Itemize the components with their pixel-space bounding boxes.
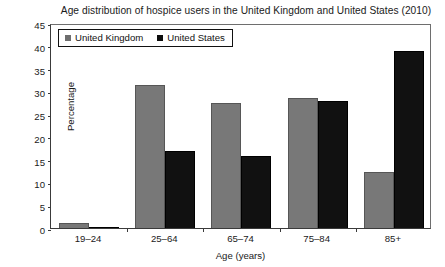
plot-inner [51,25,430,228]
x-axis-title: Age (years) [50,250,431,261]
bar-group [127,25,203,228]
y-tick-label: 35 [5,65,51,76]
bar-us [241,156,271,228]
bar-uk [211,103,241,228]
x-tick-mark [356,228,357,232]
bar-uk [135,85,165,229]
bar-group [280,25,356,228]
bar-us [318,101,348,228]
chart-title: Age distribution of hospice users in the… [56,5,436,16]
y-tick-label: 5 [5,202,51,213]
legend-label: United Kingdom [75,32,143,43]
x-tick-mark [127,228,128,232]
bar-us [394,51,424,228]
bar-us [89,227,119,229]
x-tick-mark [203,228,204,232]
legend-item-united-kingdom: United Kingdom [65,32,143,43]
y-tick-label: 15 [5,156,51,167]
bar-uk [59,223,89,228]
y-tick-label: 30 [5,88,51,99]
y-tick-label: 45 [5,20,51,31]
legend-swatch-icon [157,35,163,41]
legend-swatch-icon [65,35,71,41]
bar-uk [364,172,394,228]
bar-chart: Age distribution of hospice users in the… [0,0,445,267]
plot-area: Percentage 051015202530354045 [50,24,431,229]
bar-group [356,25,432,228]
bar-group [203,25,279,228]
y-tick-label: 10 [5,179,51,190]
bar-us [165,151,195,228]
legend: United Kingdom United States [58,29,233,47]
legend-label: United States [167,32,225,43]
x-tick-label: 85+ [348,233,438,244]
y-tick-label: 20 [5,133,51,144]
y-tick-label: 40 [5,42,51,53]
legend-item-united-states: United States [157,32,225,43]
bar-group [51,25,127,228]
bar-uk [288,98,318,228]
x-tick-mark [280,228,281,232]
y-tick-label: 25 [5,111,51,122]
